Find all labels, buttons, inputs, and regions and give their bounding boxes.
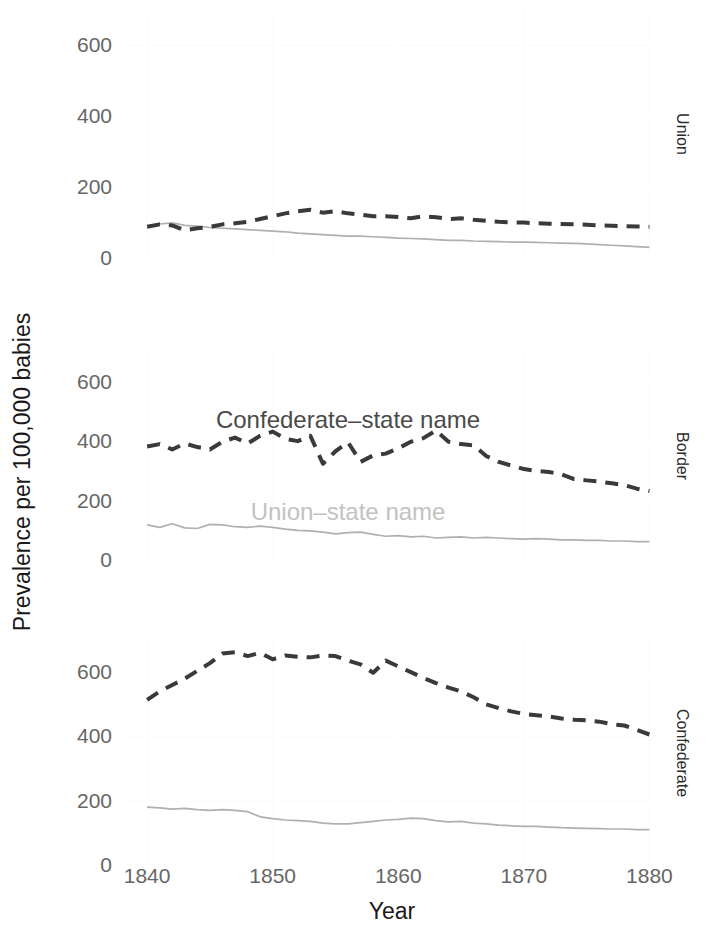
x-axis-title: Year xyxy=(122,898,662,925)
x-tick-label: 1850 xyxy=(249,864,296,888)
chart-figure: Prevalence per 100,000 babies 6004002000… xyxy=(0,0,725,944)
panel-confederate xyxy=(122,640,662,865)
x-tick-label: 1880 xyxy=(626,864,673,888)
y-tick-label: 200 xyxy=(0,175,112,199)
facet-strip-confederate-label: Confederate xyxy=(673,708,691,796)
y-tick-label: 600 xyxy=(0,660,112,684)
panel-border xyxy=(122,352,662,560)
grid-lines xyxy=(122,352,662,560)
y-tick-label: 200 xyxy=(0,489,112,513)
facet-strip-border-label: Border xyxy=(673,432,691,480)
panel-union xyxy=(122,10,662,258)
plot-area-union xyxy=(122,10,662,258)
y-tick-label: 400 xyxy=(0,104,112,128)
plot-area-border xyxy=(122,352,662,560)
y-tick-label: 600 xyxy=(0,33,112,57)
y-tick-label: 0 xyxy=(0,853,112,877)
y-tick-label: 0 xyxy=(0,246,112,270)
x-axis-tick-labels: 18401850186018701880 xyxy=(122,864,662,894)
y-tick-label: 600 xyxy=(0,370,112,394)
facet-strip-border: Border xyxy=(668,352,696,560)
facet-strip-confederate: Confederate xyxy=(668,640,696,865)
y-tick-label: 400 xyxy=(0,724,112,748)
grid-lines xyxy=(122,640,662,865)
annotation-confederate-state-name: Confederate–state name xyxy=(216,406,480,434)
grid-lines xyxy=(122,10,662,258)
y-tick-label: 0 xyxy=(0,548,112,572)
y-tick-label: 400 xyxy=(0,429,112,453)
x-tick-label: 1870 xyxy=(501,864,548,888)
y-axis-tick-labels: 600400200060040020006004002000 xyxy=(0,0,112,944)
plot-area-confederate xyxy=(122,640,662,865)
facet-strip-union-label: Union xyxy=(673,113,691,155)
y-tick-label: 200 xyxy=(0,789,112,813)
facet-strip-union: Union xyxy=(668,10,696,258)
x-tick-label: 1860 xyxy=(375,864,422,888)
annotation-union-state-name: Union–state name xyxy=(251,498,446,526)
x-tick-label: 1840 xyxy=(124,864,171,888)
